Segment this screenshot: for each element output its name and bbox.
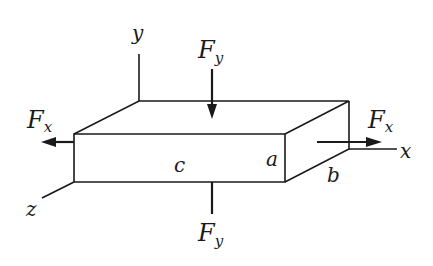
axes — [42, 54, 397, 198]
arrow-down-icon — [207, 104, 217, 119]
label-dim-a: a — [266, 147, 278, 171]
label-fy-bottom: Fy — [197, 219, 224, 250]
label-fx-left: Fx — [26, 106, 53, 136]
block-diagram: y x z Fy Fy Fx Fx a b c — [0, 0, 433, 266]
label-fx-right: Fx — [367, 106, 394, 136]
label-axis-x: x — [400, 139, 411, 163]
arrow-right-icon — [366, 137, 382, 147]
label-dim-c: c — [174, 153, 185, 177]
label-dim-b: b — [327, 163, 340, 187]
force-fy-top — [207, 69, 217, 119]
force-fx-left — [41, 137, 74, 147]
label-axis-y: y — [131, 21, 144, 45]
arrow-left-icon — [41, 137, 56, 147]
label-fy-top: Fy — [197, 36, 224, 67]
z-axis — [42, 182, 74, 198]
label-axis-z: z — [25, 197, 37, 221]
